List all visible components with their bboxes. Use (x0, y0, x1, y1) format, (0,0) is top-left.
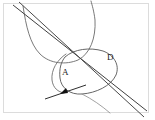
figure-container: A D (0, 0, 155, 120)
figure-canvas (0, 0, 155, 120)
region-label-d: D (107, 53, 114, 62)
region-label-a: A (62, 68, 69, 77)
